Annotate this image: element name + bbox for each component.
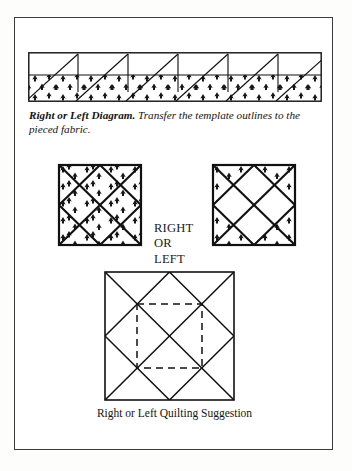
quilting-diagram-svg	[103, 270, 236, 402]
strip-diagram-svg	[28, 52, 322, 102]
blocks-row: RIGHTORLEFT	[15, 158, 334, 263]
right-or-left-label: RIGHTORLEFT	[154, 221, 193, 267]
block-corner-print	[211, 163, 297, 247]
quilting-diagram	[103, 270, 236, 402]
block-printed-svg	[57, 163, 143, 247]
page-canvas: Right or Left Diagram. Transfer the temp…	[0, 0, 352, 471]
strip-caption-lead: Right or Left Diagram.	[29, 109, 135, 121]
label-line-or: OR	[154, 236, 193, 251]
block-corner-print-svg	[211, 163, 297, 247]
strip-diagram	[28, 52, 322, 102]
page-frame: Right or Left Diagram. Transfer the temp…	[14, 17, 333, 450]
strip-printed-band	[29, 75, 321, 101]
strip-caption: Right or Left Diagram. Transfer the temp…	[29, 108, 321, 137]
block-printed	[57, 163, 143, 247]
label-line-right: RIGHT	[154, 221, 193, 236]
quilting-caption: Right or Left Quilting Suggestion	[15, 407, 334, 419]
label-line-left: LEFT	[154, 252, 193, 267]
